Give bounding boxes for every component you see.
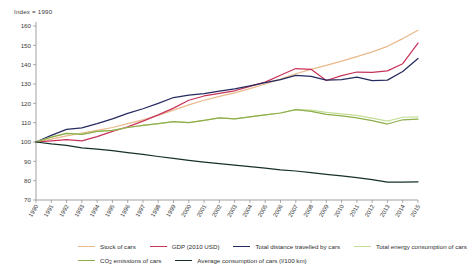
series-line-total-distance-travelled-by-cars [36,58,418,142]
legend-item-co2-emissions[interactable]: CO2 emissions of cars [78,257,161,264]
legend-item-stock-of-cars[interactable]: Stock of cars [78,243,136,250]
x-tick-label: 2001 [196,203,208,218]
y-tick-label: 100 [21,138,32,145]
x-tick-label: 1992 [58,203,70,218]
legend-label-co2-emissions: CO2 emissions of cars [100,257,161,264]
x-tick-label: 1996 [119,203,131,218]
x-tick-label: 2002 [211,203,223,218]
series-line-gdp-2010-usd [36,43,418,142]
x-tick-label: 2004 [241,203,253,218]
legend-swatch-average-consumption [175,260,192,261]
x-tick-label: 2012 [364,203,376,218]
x-tick-label: 2010 [333,203,345,218]
x-tick-label: 2006 [272,203,284,218]
series-lines [36,30,418,182]
legend-swatch-total-energy [354,246,371,247]
x-tick-label: 1997 [134,203,146,218]
y-tick-label: 80 [24,177,31,184]
x-tick-label: 2011 [349,203,361,218]
x-tick-label: 2014 [394,203,406,218]
x-tick-label: 1993 [73,203,85,218]
legend-label-gdp: GDP (2010 USD) [172,243,220,250]
legend-item-total-distance[interactable]: Total distance travelled by cars [233,243,340,250]
x-tick-label: 2008 [303,203,315,218]
x-tick-label: 1995 [104,203,116,218]
x-tick-label: 2015 [409,203,421,218]
x-tick-label: 1994 [89,203,101,218]
x-tick-label: 2005 [257,203,269,218]
x-tick-label: 1998 [150,203,162,218]
x-tick-label: 2000 [180,203,192,218]
x-tick-label: 2007 [287,203,299,218]
x-tick-label: 2013 [379,203,391,218]
y-tick-label: 150 [21,42,32,49]
y-tick-label: 130 [21,80,32,87]
legend-label-stock-of-cars: Stock of cars [100,243,136,250]
legend-label-average-consumption: Average consumption of cars (l/100 km) [197,257,306,264]
y-tick-label: 160 [21,22,32,29]
x-tick-label: 1999 [165,203,177,218]
legend-swatch-gdp [150,246,167,247]
legend-item-gdp[interactable]: GDP (2010 USD) [150,243,220,250]
legend-item-average-consumption[interactable]: Average consumption of cars (l/100 km) [175,257,306,264]
legend-label-total-distance: Total distance travelled by cars [255,243,340,250]
legend-row-1: Stock of cars GDP (2010 USD) Total dista… [78,243,408,250]
y-tick-label: 70 [24,196,31,203]
x-tick-label: 1991 [43,203,55,218]
x-tick-label: 2009 [318,203,330,218]
legend-swatch-stock-of-cars [78,246,95,247]
y-tick-label: 110 [21,119,31,126]
legend-row-2: CO2 emissions of cars Average consumptio… [78,257,408,264]
legend-swatch-co2-emissions [78,260,95,261]
x-axis: 1990199119921993199419951996199719981999… [27,200,421,218]
legend-item-total-energy[interactable]: Total energy consumption of cars [354,243,467,250]
y-tick-label: 90 [24,158,31,165]
y-tick-label: 140 [21,61,32,68]
x-tick-label: 1990 [27,203,39,218]
y-tick-label: 120 [21,100,32,107]
chart-legend: Stock of cars GDP (2010 USD) Total dista… [0,243,424,264]
y-axis: 708090100110120130140150160 [21,22,36,203]
legend-label-total-energy: Total energy consumption of cars [376,243,467,250]
x-tick-label: 2003 [226,203,238,218]
series-line-average-consumption-of-cars-l-100-km [36,142,418,182]
legend-swatch-total-distance [233,246,250,247]
